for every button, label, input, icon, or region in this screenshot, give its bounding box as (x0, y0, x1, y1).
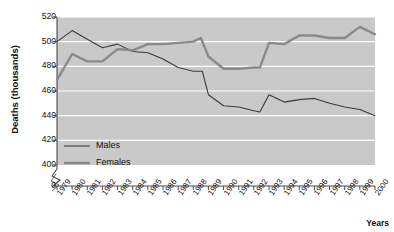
x-tick-label: 1994 (282, 177, 300, 197)
x-tick-label: 1979 (55, 177, 73, 197)
x-tick-label: 1998 (343, 177, 361, 197)
x-tick-label: 2000 (373, 177, 391, 197)
legend-label-females: Females (96, 157, 131, 167)
x-tick-label: 1981 (85, 177, 103, 197)
x-tick-label: 1980 (70, 177, 88, 197)
x-tick-label: 1985 (146, 177, 164, 197)
x-tick-label: 1988 (191, 177, 209, 197)
legend-label-males: Males (96, 140, 120, 150)
x-tick-label: 1999 (358, 177, 376, 197)
x-tick-label: 1990 (222, 177, 240, 197)
x-tick-label: 1996 (312, 177, 330, 197)
x-tick-label: 1997 (328, 177, 346, 197)
line-chart-figure: Deaths (thousands) 400420440460480500520… (0, 0, 394, 232)
x-tick-label: 1986 (161, 177, 179, 197)
x-tick-label: 1993 (267, 177, 285, 197)
x-tick-label: 1982 (100, 177, 118, 197)
x-tick-label: 1987 (176, 177, 194, 197)
x-axis-tick-labels: 1979198019811982198319841985198619871988… (0, 0, 394, 232)
x-tick-label: 1992 (252, 177, 270, 197)
x-tick-label: 1984 (131, 177, 149, 197)
x-tick-label: 1983 (116, 177, 134, 197)
x-tick-label: 1991 (237, 177, 255, 197)
x-tick-label: 1995 (297, 177, 315, 197)
x-axis-title: Years (366, 218, 389, 228)
x-tick-label: 1989 (206, 177, 224, 197)
